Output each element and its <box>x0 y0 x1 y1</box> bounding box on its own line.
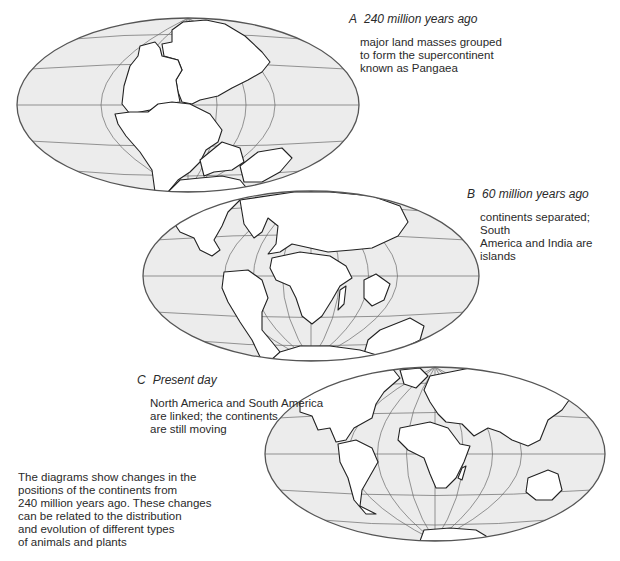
label-a-letter: A <box>349 12 357 26</box>
label-c-description: North America and South America are link… <box>150 397 323 436</box>
label-b-title: B60 million years ago <box>467 188 620 201</box>
caption-line: and evolution of different types <box>18 523 212 536</box>
label-b-letter: B <box>467 187 475 201</box>
label-b-line: America and India are islands <box>480 237 620 263</box>
map-b-60-mya <box>143 191 479 361</box>
label-a-line: known as Pangaea <box>360 62 502 75</box>
caption: The diagrams show changes in the positio… <box>18 471 212 549</box>
label-a-description: major land masses grouped to form the su… <box>360 36 502 75</box>
label-c-letter: C <box>137 373 146 387</box>
label-a-line: to form the supercontinent <box>360 49 502 62</box>
caption-line: The diagrams show changes in the <box>18 471 212 484</box>
label-c-line: North America and South America <box>150 397 323 410</box>
label-c-line: are linked; the continents <box>150 410 323 423</box>
label-a-line: major land masses grouped <box>360 36 502 49</box>
caption-line: can be related to the distribution <box>18 510 212 523</box>
label-a-period: 240 million years ago <box>364 12 477 26</box>
caption-line: positions of the continents from <box>18 484 212 497</box>
label-a: A240 million years ago major land masses… <box>349 13 502 75</box>
label-c-period: Present day <box>153 373 217 387</box>
map-a-pangaea <box>17 18 359 192</box>
label-b-description: continents separated; South America and … <box>480 211 620 263</box>
label-b-line: continents separated; South <box>480 211 620 237</box>
caption-line: 240 million years ago. These changes <box>18 497 212 510</box>
label-c: CPresent day North America and South Ame… <box>137 374 323 436</box>
label-b: B60 million years ago continents separat… <box>467 188 620 263</box>
label-a-title: A240 million years ago <box>349 13 502 26</box>
label-b-period: 60 million years ago <box>482 187 589 201</box>
label-c-line: are still moving <box>150 423 323 436</box>
caption-line: of animals and plants <box>18 536 212 549</box>
label-c-title: CPresent day <box>137 374 323 387</box>
